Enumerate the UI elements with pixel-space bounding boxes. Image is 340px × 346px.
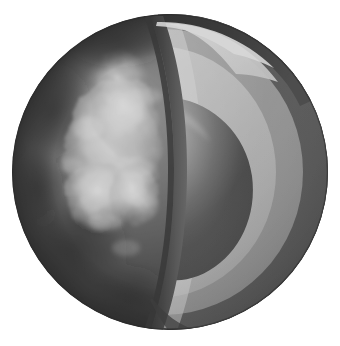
- planet-cutaway-svg: Planet interior cutaway Grayscale cutawa…: [0, 0, 340, 346]
- illustration-canvas: Planet interior cutaway Grayscale cutawa…: [0, 0, 340, 346]
- planet-cutaway-figure: Planet interior cutaway Grayscale cutawa…: [0, 0, 340, 346]
